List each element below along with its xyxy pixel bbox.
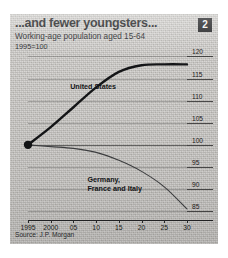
y-axis-label-105: 105 <box>192 115 203 122</box>
y-tick-95 <box>187 167 213 168</box>
y-axis-label-120: 120 <box>192 48 203 55</box>
x-axis-label-05: 05 <box>70 224 78 231</box>
y-axis-label-90: 90 <box>192 181 199 188</box>
chart-subtitle: Working-age population aged 15-64 <box>15 32 145 42</box>
x-tick-2025 <box>164 220 165 223</box>
x-axis-label-30: 30 <box>183 224 191 231</box>
y-tick-90 <box>187 189 213 190</box>
series-label-us-text: United States <box>70 82 116 91</box>
x-tick-2020 <box>142 220 143 223</box>
y-tick-110 <box>187 101 213 102</box>
y-axis-label-110: 110 <box>192 93 203 100</box>
x-axis-label-20: 20 <box>138 224 146 231</box>
x-axis-line <box>28 220 213 221</box>
chart-figure: ...and fewer youngsters... 2 Working-age… <box>10 14 218 244</box>
plot-area: 120115110105100959085 199520000510152025… <box>28 52 187 220</box>
x-tick-2000 <box>51 220 52 223</box>
source-note: Source: J.P. Morgan <box>15 231 74 238</box>
x-tick-2010 <box>96 220 97 223</box>
y-tick-100 <box>187 145 213 146</box>
y-axis-label-85: 85 <box>192 203 199 210</box>
x-tick-2030 <box>187 220 188 223</box>
series-lines <box>28 52 187 220</box>
series-label-eu-line2: France and Italy <box>87 184 142 193</box>
chart-title: ...and fewer youngsters... <box>15 16 214 30</box>
x-axis-label-25: 25 <box>161 224 169 231</box>
series-label-united-states: United States <box>70 83 116 91</box>
x-axis-label-15: 15 <box>115 224 123 231</box>
x-axis-label-2000: 2000 <box>43 224 58 231</box>
y-tick-105 <box>187 123 213 124</box>
start-point-marker <box>24 141 32 149</box>
x-axis-label-1995: 1995 <box>20 224 35 231</box>
y-axis-label-100: 100 <box>192 137 203 144</box>
y-tick-115 <box>187 79 213 80</box>
x-tick-1995 <box>28 220 29 223</box>
y-tick-120 <box>187 56 213 57</box>
chart-index-basis: 1995=100 <box>15 42 48 51</box>
y-tick-85 <box>187 211 213 212</box>
series-label-europe: Germany, France and Italy <box>87 176 142 193</box>
chart-header: ...and fewer youngsters... 2 <box>15 16 214 30</box>
y-axis-label-115: 115 <box>192 71 203 78</box>
x-tick-2015 <box>119 220 120 223</box>
x-tick-2005 <box>73 220 74 223</box>
y-axis-label-95: 95 <box>192 159 199 166</box>
x-axis-label-10: 10 <box>92 224 100 231</box>
chart-number-badge: 2 <box>198 18 212 32</box>
line-united-states <box>28 64 187 145</box>
